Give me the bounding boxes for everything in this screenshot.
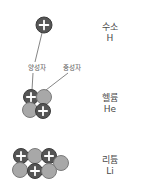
- pointer-line: [46, 73, 68, 90]
- neutron-label: 중성자: [63, 64, 81, 72]
- neutron-icon: [28, 149, 43, 164]
- element-name-ko: 수소: [92, 22, 128, 33]
- element-label-hydrogen: 수소 H: [92, 22, 128, 44]
- neutron-icon: [42, 164, 57, 179]
- pointer-line: [32, 73, 33, 90]
- nucleus-he: [23, 90, 52, 119]
- neutron-icon: [13, 163, 28, 178]
- element-label-lithium: 리튬 Li: [92, 155, 128, 177]
- element-symbol: H: [92, 33, 128, 44]
- nuclei: [13, 17, 69, 179]
- nucleus-h: [36, 17, 52, 33]
- element-name-ko: 헬륨: [92, 93, 128, 104]
- element-label-helium: 헬륨 He: [92, 93, 128, 115]
- pointer-lines: [32, 33, 68, 90]
- element-symbol: Li: [92, 166, 128, 177]
- neutron-icon: [37, 90, 52, 105]
- element-symbol: He: [92, 104, 128, 115]
- element-name-ko: 리튬: [92, 155, 128, 166]
- nucleus-li: [13, 149, 69, 179]
- pointer-line: [35, 33, 42, 62]
- proton-label: 양성자: [28, 64, 46, 72]
